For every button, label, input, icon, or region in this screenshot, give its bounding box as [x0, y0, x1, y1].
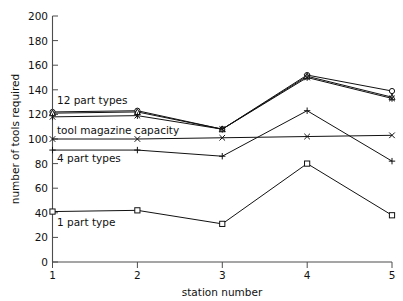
data-point-marker-square-open	[50, 209, 55, 214]
line-chart-canvas: 200 180 160 140 120 100 80 60 40 20 0 1 …	[0, 0, 403, 301]
data-point-marker-square-open	[389, 213, 394, 218]
y-tick-label-120: 120	[28, 108, 48, 120]
y-tick-label-60: 60	[35, 182, 48, 194]
data-point-marker-square-open	[305, 161, 310, 166]
chart-figure: 200 180 160 140 120 100 80 60 40 20 0 1 …	[0, 0, 403, 301]
y-tick-label-40: 40	[35, 207, 48, 219]
y-tick-label-80: 80	[35, 158, 48, 170]
x-tick-label-4: 4	[304, 269, 311, 281]
data-point-marker-square-open	[135, 208, 140, 213]
y-tick-label-0: 0	[41, 256, 48, 268]
y-tick-label-20: 20	[35, 231, 48, 243]
data-point-marker-plus	[49, 147, 55, 153]
x-tick-label-5: 5	[389, 269, 396, 281]
data-point-marker-plus	[304, 108, 310, 114]
annotation-12-part-types: 12 part types	[57, 94, 128, 106]
annotation-4-part-types: 4 part types	[57, 152, 121, 164]
data-point-marker-plus	[219, 153, 225, 159]
x-tick-label-3: 3	[219, 269, 226, 281]
data-point-marker-plus	[389, 158, 395, 164]
y-tick-label-100: 100	[28, 133, 48, 145]
data-point-marker-square-open	[220, 221, 225, 226]
y-tick-label-200: 200	[28, 10, 48, 22]
annotation-tool-magazine-capacity: tool magazine capacity	[57, 124, 179, 136]
x-tick-marks	[53, 262, 393, 268]
data-point-marker-plus	[134, 147, 140, 153]
x-tick-label-2: 2	[134, 269, 141, 281]
y-axis-title: number of tools required	[9, 74, 21, 204]
x-axis-title: station number	[182, 286, 263, 298]
y-tick-label-160: 160	[28, 59, 48, 71]
y-tick-label-140: 140	[28, 84, 48, 96]
y-tick-label-180: 180	[28, 35, 48, 47]
annotation-1-part-type: 1 part type	[57, 216, 115, 228]
x-tick-label-1: 1	[49, 269, 56, 281]
data-point-marker-circle-open	[389, 88, 394, 93]
